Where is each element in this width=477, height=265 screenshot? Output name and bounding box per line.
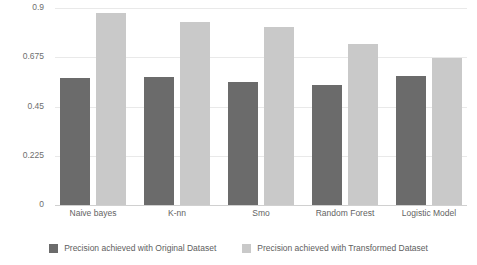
gridline-0 [55, 205, 467, 206]
bar-transformed-2[interactable] [264, 27, 294, 205]
x-label-logistic-model: Logistic Model [391, 208, 467, 219]
bar-original-3[interactable] [312, 85, 342, 205]
plot-area: 0.9 0.675 0.45 0.225 0 [55, 8, 467, 205]
bar-original-0[interactable] [60, 78, 90, 205]
legend-swatch-original-icon [49, 244, 58, 253]
legend-item-original[interactable]: Precision achieved with Original Dataset [49, 243, 216, 253]
bar-groups [55, 8, 467, 205]
y-tick-label-3: 0.675 [0, 52, 44, 61]
x-label-naive-bayes: Naive bayes [55, 208, 131, 219]
bar-group-4 [391, 8, 467, 205]
bar-transformed-3[interactable] [348, 44, 378, 205]
bar-group-0 [55, 8, 131, 205]
y-tick-label-4: 0.9 [0, 3, 44, 12]
bar-group-1 [139, 8, 215, 205]
x-label-k-nn: K-nn [139, 208, 215, 219]
y-tick-label-2: 0.45 [0, 102, 44, 111]
bar-chart: 0.9 0.675 0.45 0.225 0 [0, 0, 477, 265]
legend-label-transformed: Precision achieved with Transformed Data… [257, 243, 428, 253]
legend-swatch-transformed-icon [242, 244, 251, 253]
bar-original-2[interactable] [228, 82, 258, 205]
chart-legend: Precision achieved with Original Dataset… [0, 243, 477, 253]
bar-group-2 [223, 8, 299, 205]
bar-transformed-0[interactable] [96, 13, 126, 205]
y-tick-label-0: 0 [0, 200, 44, 209]
bar-transformed-1[interactable] [180, 22, 210, 205]
legend-label-original: Precision achieved with Original Dataset [64, 243, 216, 253]
bar-group-3 [307, 8, 383, 205]
bar-original-1[interactable] [144, 77, 174, 205]
bar-original-4[interactable] [396, 76, 426, 205]
x-axis-labels: Naive bayes K-nn Smo Random Forest Logis… [55, 208, 467, 219]
y-tick-label-1: 0.225 [0, 151, 44, 160]
bar-transformed-4[interactable] [432, 58, 462, 205]
x-label-random-forest: Random Forest [307, 208, 383, 219]
legend-item-transformed[interactable]: Precision achieved with Transformed Data… [242, 243, 428, 253]
x-label-smo: Smo [223, 208, 299, 219]
